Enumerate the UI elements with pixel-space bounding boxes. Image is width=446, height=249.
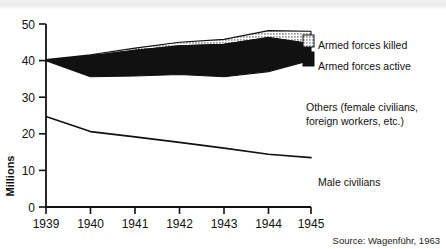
y-tick-label-40: 40 <box>22 54 36 68</box>
y-tick-label-10: 10 <box>22 164 36 178</box>
x-tick-label-1940: 1940 <box>77 217 104 231</box>
annotation-armed-forces-killed: Armed forces killed <box>318 39 407 52</box>
y-axis-title: Millions <box>4 156 16 197</box>
chart-figure: 50 40 30 20 10 0 1939 1940 1941 1942 194… <box>0 0 446 249</box>
x-tick-label-1943: 1943 <box>211 217 238 231</box>
y-tick-label-50: 50 <box>22 18 36 32</box>
legend-swatch-armed-forces-active <box>303 52 314 66</box>
source-note: Source: Wagenführ, 1963 <box>333 235 440 246</box>
x-tick-label-1939: 1939 <box>33 217 60 231</box>
y-axis-ticks <box>39 24 46 207</box>
x-tick-label-1941: 1941 <box>122 217 149 231</box>
x-axis-ticks <box>46 207 311 214</box>
annotation-armed-forces-active: Armed forces active <box>318 60 411 73</box>
y-tick-label-0: 0 <box>28 201 35 215</box>
x-tick-label-1942: 1942 <box>166 217 193 231</box>
y-tick-label-20: 20 <box>22 127 36 141</box>
legend-swatch-armed-forces-killed <box>303 35 314 47</box>
annotation-others-line-1: Others (female civilians, <box>306 101 418 114</box>
annotation-others-line-2: foreign workers, etc.) <box>306 115 404 128</box>
x-tick-label-1944: 1944 <box>255 217 282 231</box>
y-tick-label-30: 30 <box>22 91 36 105</box>
line-male-civilians <box>46 117 311 158</box>
annotation-male-civilians: Male civilians <box>318 176 380 189</box>
x-tick-label-1945: 1945 <box>298 217 325 231</box>
